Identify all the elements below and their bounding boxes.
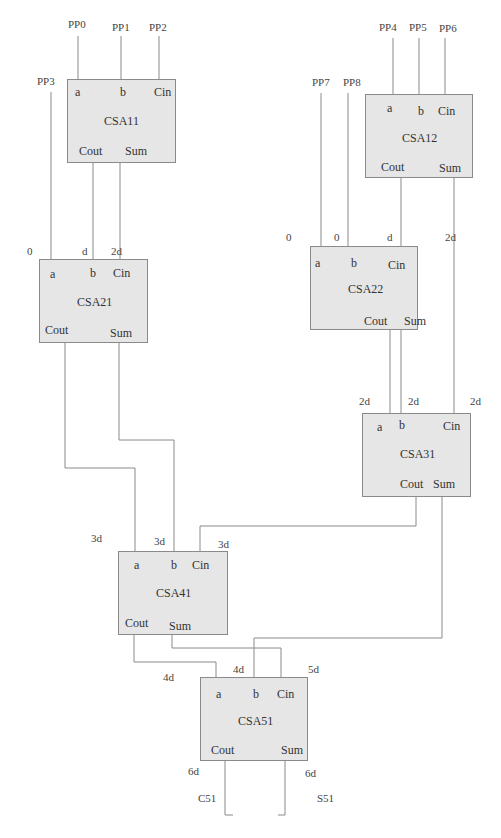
csa41-pin-cin: Cin: [192, 559, 209, 571]
csa21-block: a b Cin CSA21 Cout Sum: [39, 259, 148, 343]
csa21-pin-sum: Sum: [110, 327, 132, 339]
csa12-pin-b: b: [418, 105, 424, 117]
csa11-block: a b Cin CSA11 Cout Sum: [67, 79, 176, 163]
output-label-c51: C51: [198, 793, 216, 804]
csa12-pin-cout: Cout: [381, 161, 404, 173]
csa21-pin-cin: Cin: [113, 267, 130, 279]
csa41-name: CSA41: [156, 587, 191, 599]
input-label-pp6: PP6: [439, 23, 457, 34]
csa22-block: a b Cin CSA22 Cout Sum: [310, 246, 418, 330]
csa51-block: a b Cin CSA51 Cout Sum: [200, 677, 308, 761]
csa41-pin-a: a: [134, 559, 139, 571]
csa21-delay-b: d: [82, 246, 88, 257]
csa31-delay-a: 2d: [359, 396, 370, 407]
csa22-delay-pp8: 0: [334, 232, 340, 243]
csa51-pin-cout: Cout: [211, 744, 234, 756]
output-label-s51: S51: [317, 793, 334, 804]
csa31-pin-b: b: [399, 419, 405, 431]
csa31-pin-sum: Sum: [433, 478, 455, 490]
csa21-pin-a: a: [50, 268, 55, 280]
input-label-pp4: PP4: [379, 22, 397, 33]
csa41-delay-b: 3d: [154, 536, 165, 547]
csa51-name: CSA51: [238, 715, 273, 727]
csa31-block: a b Cin CSA31 Cout Sum: [362, 413, 471, 497]
csa11-pin-cin: Cin: [154, 86, 171, 98]
input-label-pp3: PP3: [37, 76, 55, 87]
csa11-pin-cout: Cout: [79, 145, 102, 157]
csa31-pin-cin: Cin: [443, 420, 460, 432]
csa12-block: a b Cin CSA12 Cout Sum: [365, 94, 473, 178]
csa41-delay-cin: 3d: [218, 539, 229, 550]
csa51-pin-a: a: [216, 688, 221, 700]
csa41-pin-b: b: [171, 559, 177, 571]
csa51-delay-cin: 5d: [308, 664, 319, 675]
input-label-pp5: PP5: [409, 22, 427, 33]
input-label-pp7: PP7: [312, 77, 330, 88]
csa51-delay-a: 4d: [163, 672, 174, 683]
input-label-pp8: PP8: [343, 77, 361, 88]
input-label-pp1: PP1: [112, 22, 130, 33]
csa11-pin-sum: Sum: [125, 145, 147, 157]
csa22-pin-cout: Cout: [364, 315, 387, 327]
csa12-name: CSA12: [402, 132, 437, 144]
csa51-delay-cout: 6d: [188, 766, 199, 777]
csa41-block: a b Cin CSA41 Cout Sum: [118, 551, 228, 635]
csa31-name: CSA31: [400, 448, 435, 460]
csa51-pin-sum: Sum: [281, 744, 303, 756]
csa12-pin-cin: Cin: [438, 105, 455, 117]
csa31-delay-cin: 2d: [470, 396, 481, 407]
input-label-pp2: PP2: [149, 22, 167, 33]
csa22-delay-pp7: 0: [286, 232, 292, 243]
csa12-pin-sum: Sum: [439, 162, 461, 174]
csa51-delay-b: 4d: [233, 664, 244, 675]
csa31-pin-cout: Cout: [400, 478, 423, 490]
csa41-pin-cout: Cout: [125, 617, 148, 629]
csa21-delay-cin: 2d: [111, 246, 122, 257]
input-label-pp0: PP0: [68, 19, 86, 30]
csa12-pin-a: a: [387, 102, 392, 114]
csa22-delay-cin: d: [387, 232, 393, 243]
csa41-pin-sum: Sum: [169, 620, 191, 632]
csa11-pin-a: a: [75, 86, 80, 98]
csa31-pin-a: a: [377, 421, 382, 433]
csa22-pin-cin: Cin: [388, 259, 405, 271]
csa21-name: CSA21: [77, 296, 112, 308]
csa11-pin-b: b: [120, 86, 126, 98]
csa21-pin-cout: Cout: [45, 324, 68, 336]
csa31-delay-sum-in: 2d: [445, 232, 456, 243]
csa31-delay-b: 2d: [408, 396, 419, 407]
csa22-name: CSA22: [348, 283, 383, 295]
csa22-pin-a: a: [315, 257, 320, 269]
csa51-pin-cin: Cin: [277, 688, 294, 700]
csa51-delay-sum: 6d: [305, 768, 316, 779]
csa22-pin-sum: Sum: [404, 315, 426, 327]
csa21-delay-a: 0: [27, 246, 33, 257]
csa41-delay-a: 3d: [91, 533, 102, 544]
csa51-pin-b: b: [253, 688, 259, 700]
csa22-pin-b: b: [351, 257, 357, 269]
csa21-pin-b: b: [90, 267, 96, 279]
csa11-name: CSA11: [104, 115, 139, 127]
